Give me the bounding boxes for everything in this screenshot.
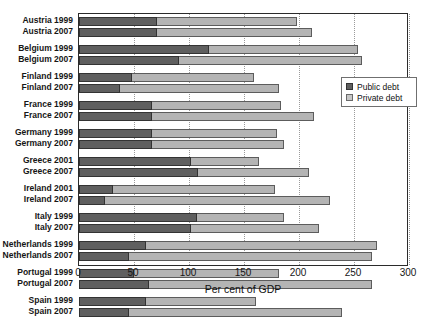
y-axis-category-labels: Austria 1999Austria 2007Belgium 1999Belg…: [0, 13, 76, 266]
bar-segment-public-debt: [79, 84, 120, 93]
x-axis-tick-50: 50: [127, 267, 138, 278]
bar-segment-public-debt: [79, 45, 209, 54]
legend-item-public-debt: Public debt: [346, 81, 412, 92]
y-axis-label: Greece 2001: [23, 156, 73, 165]
bar-row: [79, 17, 409, 26]
bar-row: [79, 308, 409, 317]
x-axis-tick-0: 0: [75, 267, 81, 278]
bar-row: [79, 297, 409, 306]
bar-segment-public-debt: [79, 241, 146, 250]
x-axis-tick-100: 100: [180, 267, 197, 278]
bar-row: [79, 213, 409, 222]
bar-row: [79, 157, 409, 166]
y-axis-label: Finland 2007: [22, 83, 74, 92]
bar-segment-public-debt: [79, 308, 129, 317]
x-axis-tick-labels: 050100150200250300: [0, 267, 440, 281]
y-axis-label: Netherlands 1999: [3, 240, 73, 249]
y-axis-label: Italy 1999: [35, 212, 73, 221]
bar-row: [79, 241, 409, 250]
bar-segment-public-debt: [79, 157, 191, 166]
bar-segment-private-debt: [79, 196, 330, 205]
y-axis-label: France 2007: [24, 111, 73, 120]
y-axis-label: Ireland 2001: [24, 184, 73, 193]
bar-row: [79, 140, 409, 149]
legend-swatch-private-icon: [346, 94, 353, 101]
bar-segment-public-debt: [79, 297, 146, 306]
bar-segment-public-debt: [79, 196, 105, 205]
x-axis-tick-300: 300: [400, 267, 417, 278]
y-axis-label: Italy 2007: [35, 223, 73, 232]
legend-swatch-public-icon: [346, 83, 353, 90]
bar-segment-public-debt: [79, 112, 152, 121]
bar-row: [79, 45, 409, 54]
y-axis-label: Greece 2007: [23, 167, 73, 176]
bar-row: [79, 196, 409, 205]
y-axis-label: Spain 2007: [29, 307, 73, 316]
bar-segment-public-debt: [79, 168, 198, 177]
chart-legend: Public debt Private debt: [341, 77, 417, 107]
bar-segment-public-debt: [79, 28, 157, 37]
bar-segment-public-debt: [79, 101, 152, 110]
y-axis-label: Netherlands 2007: [3, 251, 73, 260]
gridline-300: [409, 14, 411, 265]
bar-segment-public-debt: [79, 185, 113, 194]
legend-label-private: Private debt: [357, 93, 402, 103]
bar-row: [79, 185, 409, 194]
x-axis-tick-200: 200: [290, 267, 307, 278]
bar-segment-public-debt: [79, 213, 197, 222]
y-axis-label: Germany 2007: [15, 139, 73, 148]
bar-row: [79, 56, 409, 65]
y-axis-label: Belgium 1999: [18, 44, 73, 53]
y-axis-label: Belgium 2007: [18, 55, 73, 64]
y-axis-label: Austria 1999: [22, 16, 73, 25]
bar-segment-public-debt: [79, 252, 129, 261]
y-axis-label: Germany 1999: [15, 128, 73, 137]
bar-segment-public-debt: [79, 56, 179, 65]
bar-segment-public-debt: [79, 140, 152, 149]
bar-row: [79, 224, 409, 233]
legend-label-public: Public debt: [357, 82, 399, 92]
y-axis-label: Ireland 2007: [24, 195, 73, 204]
y-axis-label: Finland 1999: [22, 72, 74, 81]
plot-area: Public debt Private debt: [78, 13, 408, 266]
bar-segment-public-debt: [79, 73, 132, 82]
bar-row: [79, 168, 409, 177]
y-axis-label: Spain 1999: [29, 296, 73, 305]
x-axis-tick-250: 250: [345, 267, 362, 278]
bar-row: [79, 129, 409, 138]
bar-row: [79, 112, 409, 121]
bar-segment-public-debt: [79, 17, 157, 26]
x-axis-title: Per cent of GDP: [78, 283, 408, 295]
bar-row: [79, 252, 409, 261]
bar-row: [79, 28, 409, 37]
legend-item-private-debt: Private debt: [346, 92, 412, 103]
y-axis-label: Austria 2007: [22, 27, 73, 36]
x-axis-tick-150: 150: [235, 267, 252, 278]
bar-segment-public-debt: [79, 129, 152, 138]
bar-segment-public-debt: [79, 224, 191, 233]
bar-rows: [79, 14, 407, 265]
y-axis-label: France 1999: [24, 100, 73, 109]
